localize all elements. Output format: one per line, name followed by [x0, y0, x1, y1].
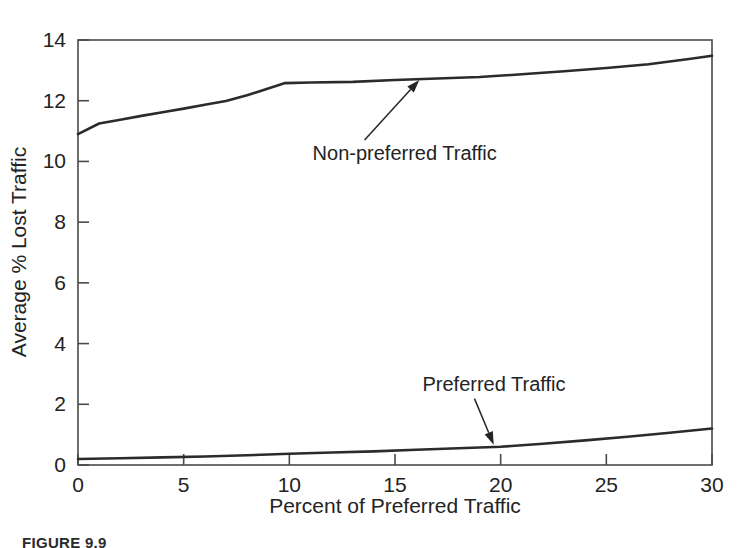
- annotation-label-preferred-traffic: Preferred Traffic: [422, 373, 565, 395]
- y-axis-title: Average % Lost Traffic: [7, 147, 30, 358]
- x-tick-label-10: 10: [278, 473, 301, 496]
- y-tick-label-14: 14: [43, 28, 67, 51]
- x-tick-label-15: 15: [383, 473, 406, 496]
- x-axis-tick-labels: 051015202530: [72, 473, 724, 496]
- y-tick-label-2: 2: [54, 392, 66, 415]
- y-tick-label-6: 6: [54, 271, 66, 294]
- figure-caption: FIGURE 9.9: [22, 534, 107, 548]
- figure-container: 02468101214 051015202530 Non-preferred T…: [0, 0, 743, 548]
- y-tick-label-0: 0: [54, 453, 66, 476]
- y-tick-label-4: 4: [54, 332, 66, 355]
- x-tick-label-5: 5: [178, 473, 190, 496]
- y-axis-tick-labels: 02468101214: [43, 28, 67, 476]
- x-tick-label-25: 25: [595, 473, 618, 496]
- y-tick-label-10: 10: [43, 149, 66, 172]
- line-chart: 02468101214 051015202530 Non-preferred T…: [0, 0, 743, 520]
- x-tick-label-0: 0: [72, 473, 84, 496]
- x-tick-label-30: 30: [700, 473, 723, 496]
- x-axis-title: Percent of Preferred Traffic: [269, 494, 521, 517]
- plot-background: [78, 40, 712, 465]
- y-tick-label-12: 12: [43, 89, 66, 112]
- y-tick-label-8: 8: [54, 210, 66, 233]
- annotation-label-non-preferred-traffic: Non-preferred Traffic: [313, 142, 497, 164]
- x-tick-label-20: 20: [489, 473, 512, 496]
